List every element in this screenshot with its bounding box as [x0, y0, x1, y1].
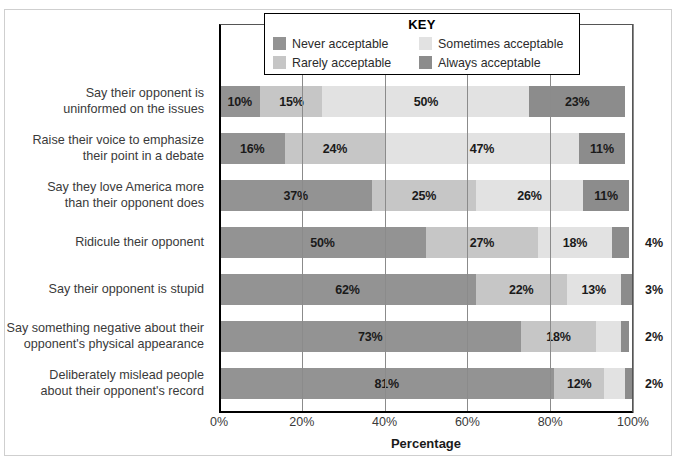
bar-segment-label: 50% — [310, 236, 334, 250]
x-axis-tick-label: 0% — [210, 415, 228, 429]
bar-segment[interactable]: 4% — [612, 227, 629, 258]
bar-segment-label: 25% — [412, 189, 436, 203]
bar-segment-label: 13% — [581, 283, 605, 297]
bar-segment-label: 10% — [227, 95, 251, 109]
bar-outside-label: 2% — [645, 368, 663, 399]
bar-segment-label: 47% — [470, 142, 494, 156]
bar-row: 37%25%26%11% — [219, 180, 633, 211]
category-label: Say something negative about theiroppone… — [0, 321, 204, 352]
category-label-line: Say their opponent is — [0, 86, 204, 102]
bar-segment[interactable]: 23% — [529, 86, 624, 117]
bar-segment[interactable]: 16% — [219, 133, 285, 164]
stacked-bar[interactable]: 81%12%5%2% — [219, 368, 633, 399]
bar-segment-label: 18% — [563, 236, 587, 250]
category-label: Say they love America morethan their opp… — [0, 180, 204, 211]
color-swatch-icon — [419, 37, 432, 50]
bar-segment-label: 15% — [279, 95, 303, 109]
category-label-line: Say they love America more — [0, 180, 204, 196]
category-label: Raise their voice to emphasizetheir poin… — [0, 133, 204, 164]
stacked-bar[interactable]: 10%15%50%23% — [219, 86, 633, 117]
bar-segment-label: 12% — [567, 377, 591, 391]
legend-item-label: Sometimes acceptable — [438, 37, 563, 51]
bar-segment[interactable]: 81% — [219, 368, 554, 399]
legend-item-label: Always acceptable — [438, 56, 541, 70]
gridline — [302, 24, 303, 413]
category-label-line: Say their opponent is stupid — [0, 282, 204, 298]
bar-segment[interactable]: 18% — [521, 321, 596, 352]
stacked-bar[interactable]: 50%27%18%4% — [219, 227, 633, 258]
x-axis-title: Percentage — [219, 436, 633, 451]
bar-outside-label: 3% — [645, 274, 663, 305]
category-axis-labels: Say their opponent isuninformed on the i… — [0, 24, 212, 413]
bar-segment[interactable]: 73% — [219, 321, 521, 352]
bar-segment[interactable]: 25% — [372, 180, 476, 211]
bar-rows: 10%15%50%23%16%24%47%11%37%25%26%11%50%2… — [219, 24, 633, 413]
legend-item[interactable]: Never acceptable — [273, 34, 419, 53]
bar-segment[interactable]: 2% — [621, 321, 629, 352]
bar-segment[interactable]: 10% — [219, 86, 260, 117]
bar-segment[interactable]: 13% — [567, 274, 621, 305]
bar-segment[interactable]: 12% — [554, 368, 604, 399]
bar-segment[interactable]: 50% — [219, 227, 426, 258]
bar-segment[interactable]: 24% — [285, 133, 384, 164]
bar-segment[interactable]: 37% — [219, 180, 372, 211]
bar-segment-label: 22% — [509, 283, 533, 297]
category-label: Say their opponent isuninformed on the i… — [0, 86, 204, 117]
x-axis-tick-label: 20% — [289, 415, 314, 429]
category-label-line: Ridicule their opponent — [0, 235, 204, 251]
bar-segment[interactable]: 6% — [596, 321, 621, 352]
bar-row: 16%24%47%11% — [219, 133, 633, 164]
category-label-line: about their opponent's record — [0, 384, 204, 400]
bar-segment-label: 81% — [374, 377, 398, 391]
category-label-line: Deliberately mislead people — [0, 368, 204, 384]
bar-segment[interactable]: 5% — [604, 368, 625, 399]
bar-segment[interactable]: 15% — [260, 86, 322, 117]
bar-segment[interactable]: 11% — [583, 180, 629, 211]
bar-segment[interactable]: 3% — [621, 274, 633, 305]
bar-segment[interactable]: 18% — [538, 227, 613, 258]
bar-segment-label: 23% — [565, 95, 589, 109]
category-label-line: their point in a debate — [0, 149, 204, 165]
x-axis-ticks: 0%20%40%60%80%100% — [219, 415, 633, 433]
gridline — [550, 24, 551, 413]
category-label-line: Raise their voice to emphasize — [0, 133, 204, 149]
bar-row: 62%22%13%3% — [219, 274, 633, 305]
bar-segment[interactable]: 27% — [426, 227, 538, 258]
bar-row: 50%27%18%4% — [219, 227, 633, 258]
x-axis-tick-label: 40% — [372, 415, 397, 429]
x-axis-tick-label: 80% — [538, 415, 563, 429]
x-axis-tick-label: 60% — [455, 415, 480, 429]
legend-title: KEY — [273, 17, 571, 32]
bar-segment-label: 37% — [283, 189, 307, 203]
bar-row: 10%15%50%23% — [219, 86, 633, 117]
category-label-line: uninformed on the issues — [0, 102, 204, 118]
gridline — [385, 24, 386, 413]
bar-segment[interactable]: 50% — [322, 86, 529, 117]
stacked-bar[interactable]: 37%25%26%11% — [219, 180, 633, 211]
bar-segment-label: 11% — [594, 189, 618, 203]
bar-segment-label: 73% — [358, 330, 382, 344]
gridline — [467, 24, 468, 413]
bar-segment[interactable]: 11% — [579, 133, 625, 164]
stacked-bar[interactable]: 73%18%6%2% — [219, 321, 633, 352]
bar-segment[interactable]: 26% — [476, 180, 584, 211]
bar-segment[interactable]: 62% — [219, 274, 476, 305]
legend-item[interactable]: Sometimes acceptable — [419, 34, 571, 53]
bar-segment-label: 26% — [517, 189, 541, 203]
bar-segment[interactable]: 2% — [625, 368, 633, 399]
category-label: Deliberately mislead peopleabout their o… — [0, 368, 204, 399]
category-label: Ridicule their opponent — [0, 235, 204, 251]
bar-segment-label: 11% — [590, 142, 614, 156]
stacked-bar[interactable]: 16%24%47%11% — [219, 133, 633, 164]
bar-segment-label: 24% — [323, 142, 347, 156]
bar-row: 73%18%6%2% — [219, 321, 633, 352]
gridline — [633, 24, 634, 413]
legend-item[interactable]: Rarely acceptable — [273, 53, 419, 72]
legend-item-label: Never acceptable — [292, 37, 388, 51]
legend-item[interactable]: Always acceptable — [419, 53, 571, 72]
stacked-bar[interactable]: 62%22%13%3% — [219, 274, 633, 305]
legend-item-label: Rarely acceptable — [292, 56, 391, 70]
bar-segment[interactable]: 22% — [476, 274, 567, 305]
legend-key-box: KEY Never acceptableSometimes acceptable… — [264, 13, 580, 75]
color-swatch-icon — [419, 56, 432, 69]
